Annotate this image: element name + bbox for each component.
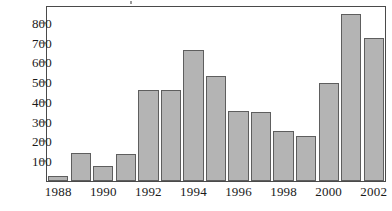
bar: [273, 131, 293, 181]
bar: [116, 154, 136, 181]
x-tick-label: 1988: [45, 184, 72, 200]
x-tick-label: 1990: [90, 184, 117, 200]
x-tick-label: 1996: [225, 184, 252, 200]
bar: [48, 176, 68, 181]
bar: [251, 112, 271, 181]
bar: [183, 50, 203, 181]
bar: [341, 14, 361, 181]
bar: [319, 83, 339, 181]
artifact-speck: [130, 1, 132, 4]
x-tick-label: 1994: [180, 184, 207, 200]
bar: [161, 90, 181, 181]
bar: [71, 153, 91, 181]
bar: [364, 38, 384, 181]
bar: [93, 166, 113, 181]
x-axis: 19881990199219941996199820002002: [47, 184, 385, 206]
x-tick-label: 2002: [360, 184, 387, 200]
bar-chart: 800700600500400300200100 198819901992199…: [0, 0, 392, 211]
x-tick-label: 2000: [315, 184, 342, 200]
bar-series: [47, 7, 385, 181]
x-tick-label: 1992: [135, 184, 162, 200]
bar: [228, 111, 248, 181]
x-tick-label: 1998: [270, 184, 297, 200]
bar: [296, 136, 316, 181]
bar: [138, 90, 158, 181]
bar: [206, 76, 226, 181]
